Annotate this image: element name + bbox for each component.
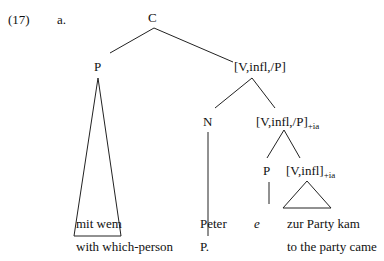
node-subscript: +ia: [308, 121, 320, 131]
gloss-to-the-party-came: to the party came: [287, 240, 377, 253]
node-v-infl-p: [V,infl,/P]: [234, 60, 286, 73]
leaf-zur-party-kam: zur Party kam: [287, 217, 360, 230]
example-letter: a.: [57, 13, 66, 26]
node-p-left: P: [94, 60, 101, 73]
node-v-infl-p-ia: [V,infl,/P]+ia: [256, 115, 319, 131]
node-label: [V,infl]: [286, 163, 324, 178]
node-subscript: +ia: [324, 170, 336, 180]
gloss-p: P.: [200, 240, 209, 253]
leaf-peter: Peter: [200, 217, 227, 230]
leaf-trace-e: e: [254, 217, 260, 230]
leaf-mit-wem: mit wem: [76, 217, 122, 230]
node-v-infl-ia: [V,infl]+ia: [286, 164, 335, 180]
node-n: N: [203, 115, 212, 128]
node-p-right: P: [263, 164, 270, 177]
node-c: C: [148, 11, 157, 24]
example-number: (17): [8, 13, 30, 26]
gloss-with-which-person: with which-person: [76, 240, 173, 253]
node-label: [V,infl,/P]: [256, 114, 308, 129]
